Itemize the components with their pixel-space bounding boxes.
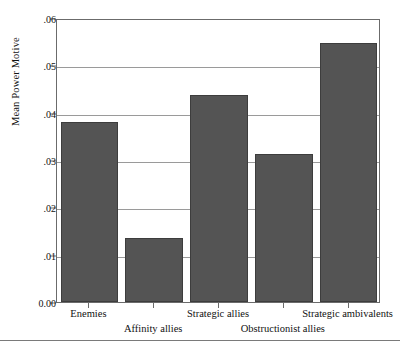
x-tick-label: Obstructionist allies: [241, 323, 325, 334]
bar-chart-figure: Mean Power Motive 0.00.01.02.03.04.05.06…: [0, 0, 400, 344]
bar: [190, 95, 248, 302]
x-tick-label: Affinity allies: [124, 323, 182, 334]
y-tick-label: .06: [14, 14, 56, 25]
x-tick-label: Strategic allies: [187, 308, 249, 319]
x-tick-label: Strategic ambivalents: [302, 308, 393, 319]
x-tick-mark: [153, 303, 154, 308]
y-tick-label: .04: [14, 108, 56, 119]
y-tick-label: .05: [14, 61, 56, 72]
x-tick-label: Enemies: [70, 308, 106, 319]
plot-area: [56, 19, 380, 303]
x-tick-mark: [283, 303, 284, 308]
bar: [125, 238, 183, 302]
bottom-divider: [0, 340, 400, 341]
y-tick-label: .03: [14, 156, 56, 167]
bar: [61, 122, 119, 302]
y-tick-label: 0.00: [14, 298, 56, 309]
bar: [255, 154, 313, 302]
y-tick-label: .02: [14, 203, 56, 214]
bar: [320, 43, 378, 302]
y-tick-label: .01: [14, 250, 56, 261]
